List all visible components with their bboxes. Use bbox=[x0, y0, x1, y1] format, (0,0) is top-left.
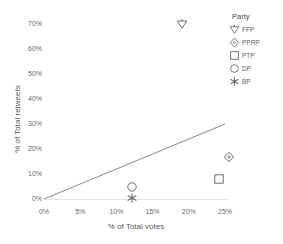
legend-items: FFPPPRPPTPDPBP bbox=[228, 24, 282, 87]
legend-item-dp[interactable]: DP bbox=[228, 63, 282, 74]
circle-icon bbox=[228, 63, 241, 74]
triangle-down-icon bbox=[228, 24, 241, 35]
legend-item-label: DP bbox=[241, 64, 251, 73]
data-point-bp bbox=[126, 192, 138, 204]
square-icon bbox=[228, 50, 241, 61]
legend-title: Party bbox=[232, 12, 282, 21]
data-point-ptp bbox=[213, 173, 225, 185]
legend-item-pprp[interactable]: PPRP bbox=[228, 37, 282, 48]
legend-item-label: FFP bbox=[241, 25, 254, 34]
legend-item-ptp[interactable]: PTP bbox=[228, 50, 282, 61]
data-point-ffp bbox=[176, 18, 188, 30]
legend: Party FFPPPRPPTPDPBP bbox=[228, 12, 282, 89]
legend-item-bp[interactable]: BP bbox=[228, 76, 282, 87]
legend-item-label: PPRP bbox=[241, 38, 260, 47]
x-axis-title: % of Total votes bbox=[45, 222, 227, 231]
data-point-pprp bbox=[223, 151, 235, 163]
data-point-dp bbox=[126, 181, 138, 193]
legend-item-label: PTP bbox=[241, 51, 255, 60]
legend-item-ffp[interactable]: FFP bbox=[228, 24, 282, 35]
legend-item-label: BP bbox=[241, 77, 251, 86]
diamond-icon bbox=[228, 37, 241, 48]
star-icon bbox=[228, 76, 241, 87]
scatter-chart: % of Total retweets 0%10%20%30%40%50%60%… bbox=[0, 0, 283, 244]
